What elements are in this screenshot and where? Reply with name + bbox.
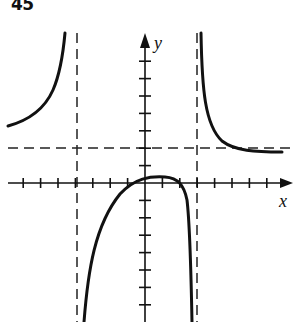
y-axis-label: y bbox=[152, 33, 162, 53]
y-axis-arrow-icon bbox=[140, 33, 150, 48]
curve-left-branch bbox=[8, 33, 65, 126]
graph: y x bbox=[0, 0, 301, 322]
curve-right-branch bbox=[201, 33, 282, 152]
x-axis-arrow-icon bbox=[280, 178, 293, 188]
curve-middle-branch bbox=[84, 177, 192, 322]
x-axis-label: x bbox=[278, 191, 287, 211]
x-axis bbox=[8, 178, 293, 188]
